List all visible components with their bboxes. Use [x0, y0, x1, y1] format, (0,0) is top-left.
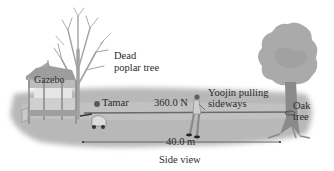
distance-label: 40.0 m — [166, 136, 195, 147]
oak-tree-label-line2: tree — [293, 111, 309, 122]
view-caption: Side view — [159, 154, 201, 165]
yoojin-label-line2: sideways — [208, 98, 247, 109]
force-label: 360.0 N — [154, 97, 188, 108]
yoojin-label-line1: Yoojin pulling — [208, 87, 269, 98]
gazebo-label: Gazebo — [34, 74, 65, 85]
oak-tree-label-line1: Oak — [293, 100, 311, 111]
dead-tree-label-line1: Dead — [114, 50, 136, 61]
dead-tree-label-line2: poplar tree — [114, 62, 159, 73]
gazebo-icon — [22, 60, 77, 124]
tamar-label: Tamar — [102, 97, 129, 108]
